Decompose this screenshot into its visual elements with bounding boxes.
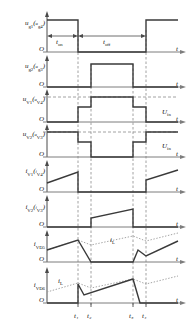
waveform-ug2 — [43, 55, 186, 89]
waveform-ug1 — [43, 11, 186, 54]
iv2-time-axis-label: t — [176, 220, 178, 228]
iv1-origin-label: O — [39, 185, 44, 193]
ug1-time-axis-label: t — [176, 45, 178, 53]
time-marker-t2: t₂ — [87, 312, 91, 320]
ivd6-inductor-current-label: iL — [58, 277, 63, 286]
ug2-t-arrow — [180, 85, 186, 89]
waveform-uv1 — [43, 89, 186, 124]
time-marker-t4: t₄ — [142, 312, 146, 320]
uv1-axis-label: uV1(uV4) — [23, 95, 45, 104]
iv2-axis-label: iV2(iV3) — [25, 203, 45, 212]
ug1-t-arrow — [180, 50, 186, 54]
time-marker-t1: t₁ — [74, 312, 78, 320]
ug1-axis-label: ug1(ug4) — [25, 19, 45, 28]
waveform-iv1 — [43, 160, 186, 194]
ug1-origin-label: O — [39, 45, 44, 53]
iv1-axis-label: iV1(iV4) — [25, 167, 45, 176]
waveform-figure: ug1(ug4) O t ton toff ug2(ug3) O t uV1(u… — [0, 0, 195, 327]
waveform-canvas — [0, 0, 195, 327]
uv1-trace — [47, 97, 178, 122]
iv2-y-arrow — [45, 195, 49, 201]
iv2-origin-label: O — [39, 220, 44, 228]
time-marker-t3: t₃ — [129, 312, 133, 320]
waveform-ivd6 — [43, 267, 186, 307]
uv2-origin-label: O — [39, 150, 44, 158]
ivd5-origin-label: O — [39, 255, 44, 263]
uv2-supply-label: Uin — [162, 142, 171, 151]
uv2-axis-label: uV2(uV3) — [23, 130, 45, 139]
uv2-trace — [47, 132, 178, 157]
ivd6-il-dotted — [47, 276, 178, 292]
iv1-y-arrow — [45, 160, 49, 166]
time-marker-lines — [78, 30, 146, 305]
ug1-y-arrow — [45, 11, 49, 17]
ivd5-time-axis-label: t — [176, 255, 178, 263]
ivd5-axis-label: iVD5 — [34, 240, 45, 249]
t-on-label: ton — [56, 38, 63, 47]
ivd6-tick-marks — [78, 303, 146, 307]
ug2-y-arrow — [45, 55, 49, 61]
ivd6-y-arrow — [45, 267, 49, 273]
ivd6-origin-label: O — [39, 296, 44, 304]
ug2-time-axis-label: t — [176, 80, 178, 88]
ivd5-t-arrow — [180, 260, 186, 264]
ivd6-axis-label: iVD6 — [34, 281, 45, 290]
uv2-time-axis-label: t — [176, 150, 178, 158]
uv1-supply-label: Uin — [162, 108, 171, 117]
uv2-t-arrow — [180, 155, 186, 159]
iv1-t-arrow — [180, 190, 186, 194]
uv1-t-arrow — [180, 120, 186, 124]
iv1-time-axis-label: t — [176, 185, 178, 193]
iv2-t-arrow — [180, 225, 186, 229]
uv2-y-arrow — [45, 124, 49, 130]
uv1-y-arrow — [45, 89, 49, 95]
ug2-axis-label: ug2(ug3) — [25, 62, 45, 71]
ug2-trace — [47, 64, 178, 87]
ivd6-time-axis-label: t — [176, 296, 178, 304]
iv1-trace — [47, 170, 178, 192]
ivd5-y-arrow — [45, 230, 49, 236]
t-off-label: toff — [103, 38, 110, 47]
toff-dimension — [78, 34, 146, 38]
iv2-trace — [47, 209, 178, 227]
ug2-origin-label: O — [39, 80, 44, 88]
ivd6-trace — [47, 279, 178, 303]
waveform-iv2 — [43, 195, 186, 229]
uv1-time-axis-label: t — [176, 115, 178, 123]
ivd5-inductor-current-label: iL — [110, 236, 115, 245]
uv1-origin-label: O — [39, 115, 44, 123]
ivd6-t-arrow — [180, 301, 186, 305]
